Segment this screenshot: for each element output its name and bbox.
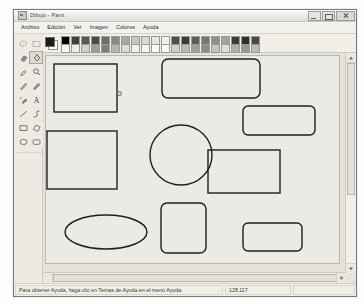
foreground-color-swatch[interactable]	[45, 37, 55, 47]
palette-swatch[interactable]	[171, 44, 180, 53]
palette-swatch[interactable]	[101, 44, 110, 53]
palette-swatch[interactable]	[221, 44, 230, 53]
palette-swatch[interactable]	[71, 44, 80, 53]
palette-swatch[interactable]	[141, 44, 150, 53]
paint-window: Dibujo - Paint Archivo Edición Ver Image…	[13, 9, 357, 297]
palette-swatch[interactable]	[111, 44, 120, 53]
close-button[interactable]	[336, 11, 355, 21]
palette-swatch[interactable]	[91, 44, 100, 53]
menu-edicion[interactable]: Edición	[43, 22, 69, 33]
status-bar: Para obtener Ayuda, haga clic en Temas d…	[14, 283, 356, 296]
canvas-region	[43, 53, 356, 283]
tool-grid: A	[16, 37, 41, 148]
palette-swatch[interactable]	[241, 44, 250, 53]
eraser-tool[interactable]	[16, 51, 30, 64]
brush-tool[interactable]	[29, 79, 43, 92]
rounded-rectangle-1	[162, 59, 260, 98]
rounded-rectangle-2	[243, 106, 315, 135]
curve-tool[interactable]	[29, 107, 43, 120]
canvas-shapes	[46, 56, 339, 263]
rounded-rectangle-3	[243, 223, 302, 251]
palette-swatch[interactable]	[211, 44, 220, 53]
pick-color-tool[interactable]	[16, 65, 30, 78]
palette-swatch[interactable]	[61, 44, 70, 53]
square-1	[47, 131, 117, 189]
title-bar[interactable]: Dibujo - Paint	[14, 10, 356, 22]
window-title: Dibujo - Paint	[30, 10, 64, 21]
color-preview[interactable]	[45, 37, 58, 50]
circle-1	[150, 125, 212, 185]
editor-column	[43, 34, 356, 283]
minimize-button[interactable]	[308, 11, 321, 21]
menu-bar: Archivo Edición Ver Imagen Colores Ayuda	[14, 22, 356, 34]
rectangle-1	[54, 64, 117, 112]
palette-swatch[interactable]	[131, 44, 140, 53]
palette-swatch[interactable]	[121, 44, 130, 53]
maximize-button[interactable]	[322, 11, 335, 21]
rounded-square-1	[161, 203, 206, 253]
menu-ayuda[interactable]: Ayuda	[139, 22, 163, 33]
ellipse-tool[interactable]	[16, 135, 30, 148]
text-tool[interactable]: A	[29, 93, 43, 106]
palette-swatch[interactable]	[231, 44, 240, 53]
palette-swatch[interactable]	[81, 44, 90, 53]
tool-options-panel	[16, 152, 42, 179]
window-controls	[308, 11, 355, 21]
status-empty-pane	[293, 285, 355, 295]
scroll-left-arrow[interactable]	[43, 273, 53, 283]
palette-swatches	[61, 36, 260, 51]
line-tool[interactable]	[16, 107, 30, 120]
fill-with-color-tool[interactable]	[29, 51, 43, 64]
palette-swatch[interactable]	[181, 44, 190, 53]
rounded-rectangle-tool[interactable]	[29, 135, 43, 148]
menu-ver[interactable]: Ver	[69, 22, 85, 33]
rectangle-select-tool[interactable]	[29, 37, 43, 50]
horizontal-scroll-thumb[interactable]	[53, 274, 345, 282]
svg-text:A: A	[33, 96, 39, 104]
rectangle-2	[208, 150, 280, 193]
vertical-scroll-thumb[interactable]	[347, 63, 355, 195]
screenshot-root: Dibujo - Paint Archivo Edición Ver Image…	[0, 0, 364, 304]
color-palette	[43, 34, 356, 53]
scroll-up-arrow[interactable]	[346, 53, 356, 63]
palette-swatch[interactable]	[201, 44, 210, 53]
paint-app-icon	[18, 11, 27, 20]
palette-swatch[interactable]	[161, 44, 170, 53]
menu-archivo[interactable]: Archivo	[17, 22, 43, 33]
rectangle-tool[interactable]	[16, 121, 30, 134]
status-coordinates: 128,117	[225, 285, 291, 295]
palette-swatch[interactable]	[191, 44, 200, 53]
horizontal-scrollbar[interactable]	[43, 272, 346, 283]
menu-imagen[interactable]: Imagen	[86, 22, 112, 33]
toolbox: A	[14, 34, 43, 283]
pencil-tool[interactable]	[16, 79, 30, 92]
work-area: A	[14, 34, 356, 283]
menu-colores[interactable]: Colores	[112, 22, 139, 33]
scroll-down-arrow[interactable]	[346, 263, 356, 273]
polygon-tool[interactable]	[29, 121, 43, 134]
palette-swatch[interactable]	[251, 44, 260, 53]
airbrush-tool[interactable]	[16, 93, 30, 106]
magnifier-tool[interactable]	[29, 65, 43, 78]
palette-swatch[interactable]	[151, 44, 160, 53]
scroll-right-arrow[interactable]	[336, 273, 346, 283]
status-help-text: Para obtener Ayuda, haga clic en Temas d…	[15, 285, 223, 295]
vertical-scrollbar[interactable]	[345, 53, 356, 273]
free-form-select-tool[interactable]	[16, 37, 30, 50]
ellipse-1	[65, 215, 147, 249]
drawing-canvas[interactable]	[45, 55, 340, 264]
